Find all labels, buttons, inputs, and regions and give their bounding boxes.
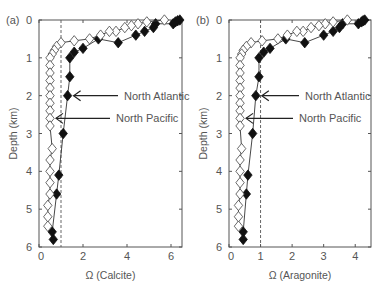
open-diamond-marker	[307, 22, 315, 32]
open-diamond-marker	[46, 189, 54, 199]
open-diamond-marker	[121, 22, 129, 32]
open-diamond-marker	[105, 26, 113, 36]
filled-diamond-marker	[132, 30, 140, 40]
y-tick-label: 5	[26, 203, 32, 215]
y-tick-label: 2	[26, 90, 32, 102]
filled-diamond-marker	[63, 90, 71, 100]
filled-diamond-marker	[319, 30, 327, 40]
open-diamond-marker	[236, 121, 244, 131]
panel-label: (b)	[196, 14, 209, 26]
open-diamond-marker	[258, 36, 266, 46]
open-diamond-marker	[48, 143, 56, 153]
open-diamond-marker	[236, 155, 244, 165]
figure: (a)01234560246Ω (Calcite)Depth (km)North…	[0, 0, 387, 289]
filled-diamond-marker	[244, 170, 252, 180]
y-tick-label: 4	[26, 165, 32, 177]
y-tick-label: 5	[216, 203, 222, 215]
x-tick-label: 6	[168, 250, 174, 262]
open-diamond-marker	[274, 34, 282, 44]
filled-diamond-marker	[301, 38, 309, 48]
filled-diamond-marker	[252, 90, 260, 100]
x-axis-label: Ω (Calcite)	[86, 269, 136, 281]
open-diamond-marker	[46, 177, 54, 187]
filled-diamond-marker	[66, 72, 74, 82]
filled-diamond-marker	[79, 43, 87, 53]
panel-calcite: (a)01234560246Ω (Calcite)Depth (km)North…	[6, 14, 190, 281]
open-diamond-marker	[70, 36, 78, 46]
x-axis-label: Ω (Aragonite)	[269, 269, 332, 281]
annotation-label: North Atlantic	[124, 90, 190, 102]
y-tick-label: 3	[26, 128, 32, 140]
x-tick-label: 3	[321, 250, 327, 262]
open-diamond-marker	[46, 166, 54, 176]
x-tick-label: 1	[257, 250, 263, 262]
panel-label: (a)	[6, 14, 19, 26]
filled-diamond-marker	[140, 26, 148, 36]
y-tick-label: 6	[26, 241, 32, 253]
y-tick-label: 0	[216, 14, 222, 26]
panel-aragonite: (b)012345601234Ω (Aragonite)Depth (km)No…	[196, 14, 371, 281]
filled-diamond-marker	[255, 72, 263, 82]
y-tick-label: 2	[216, 90, 222, 102]
open-diamond-marker	[236, 189, 244, 199]
open-diamond-marker	[236, 177, 244, 187]
open-diamond-marker	[315, 20, 323, 30]
y-axis-label: Depth (km)	[7, 108, 19, 160]
filled-diamond-marker	[55, 170, 63, 180]
annotation-label: North Pacific	[299, 112, 362, 124]
filled-diamond-marker	[239, 234, 247, 244]
x-tick-label: 4	[352, 250, 358, 262]
open-diamond-marker	[46, 121, 54, 131]
y-axis-label: Depth (km)	[197, 108, 209, 160]
annotation-label: North Atlantic	[305, 90, 371, 102]
y-tick-label: 4	[216, 165, 222, 177]
annotation-label: North Pacific	[116, 112, 179, 124]
filled-diamond-marker	[59, 128, 67, 138]
x-tick-label: 0	[38, 250, 44, 262]
x-tick-label: 2	[80, 250, 86, 262]
y-tick-label: 0	[26, 14, 32, 26]
open-diamond-marker	[44, 200, 52, 210]
y-tick-label: 1	[26, 52, 32, 64]
x-tick-label: 0	[228, 250, 234, 262]
open-diamond-marker	[234, 200, 242, 210]
y-tick-label: 1	[216, 52, 222, 64]
open-diamond-marker	[127, 20, 135, 30]
open-diamond-marker	[237, 143, 245, 153]
x-tick-label: 2	[289, 250, 295, 262]
filled-diamond-marker	[248, 128, 256, 138]
open-diamond-marker	[46, 155, 54, 165]
open-diamond-marker	[143, 17, 151, 27]
x-tick-label: 4	[124, 250, 130, 262]
open-diamond-marker	[293, 26, 301, 36]
y-tick-label: 3	[216, 128, 222, 140]
filled-diamond-marker	[49, 234, 57, 244]
y-tick-label: 6	[216, 241, 222, 253]
open-diamond-marker	[236, 166, 244, 176]
filled-diamond-marker	[114, 38, 122, 48]
open-diamond-marker	[329, 17, 337, 27]
